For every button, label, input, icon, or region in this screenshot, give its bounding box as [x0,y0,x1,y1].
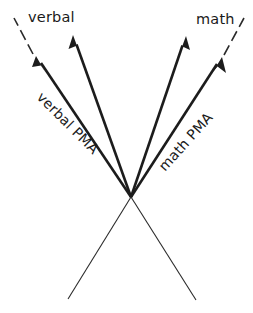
verbal-axis-vector-arrowhead [32,56,46,73]
math-axis-vector-arrowhead [213,57,227,73]
verbal-extension-line [68,197,131,299]
math-pma-vector [131,36,190,197]
verbal-pma-vector-shaft [77,45,132,198]
verbal-axis-label: verbal [28,9,75,25]
diagram-canvas: verbal math verbal PMA math PMA [0,0,253,313]
verbal-pma-label: verbal PMA [34,89,102,157]
math-pma-label: math PMA [155,109,216,174]
math-axis-vector [131,57,226,197]
math-axis-label: math [196,11,235,27]
vector-diagram-figure: verbal math verbal PMA math PMA [0,0,253,313]
math-pma-vector-shaft [131,46,183,198]
math-extension-line [131,197,196,300]
